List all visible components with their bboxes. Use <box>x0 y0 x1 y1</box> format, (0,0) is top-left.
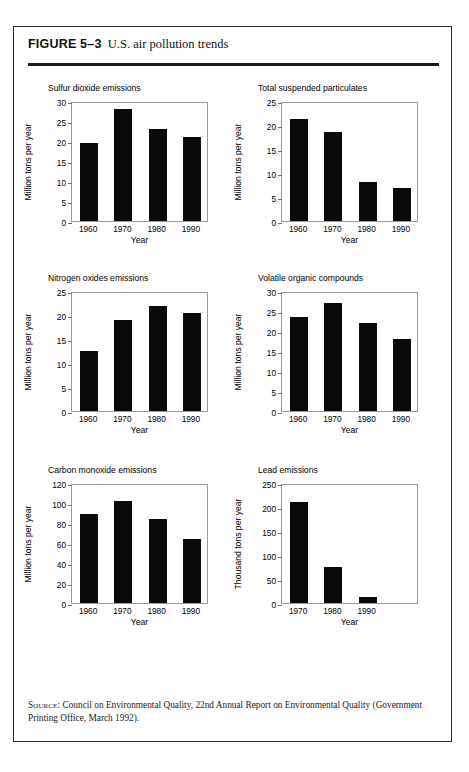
y-tick-label: 0 <box>61 409 66 417</box>
plot-area: 050100150200250 <box>281 484 418 604</box>
x-tick-label: 1970 <box>113 414 131 424</box>
x-axis-title: Year <box>281 425 418 435</box>
y-tick-label: 60 <box>57 541 66 549</box>
y-tick-label: 10 <box>57 179 66 187</box>
y-axis-title: Million tons per year <box>232 102 244 222</box>
y-tick-mark <box>68 123 72 124</box>
x-tick-label: 1990 <box>357 606 375 616</box>
x-tick-label: 1980 <box>147 414 165 424</box>
x-tick-label: 1990 <box>182 606 200 616</box>
y-tick-mark <box>278 151 282 152</box>
y-tick-label: 0 <box>61 601 66 609</box>
y-tick-label: 100 <box>52 501 66 509</box>
bar <box>183 313 201 411</box>
x-axis-title: Year <box>71 425 208 435</box>
chart-panel: Sulfur dioxide emissionsMillion tons per… <box>24 83 224 273</box>
x-axis-title: Year <box>71 235 208 245</box>
bar <box>114 109 132 221</box>
chart-title: Nitrogen oxides emissions <box>48 273 148 283</box>
y-tick-mark <box>278 533 282 534</box>
chart-panel: Nitrogen oxides emissionsMillion tons pe… <box>24 273 224 463</box>
y-tick-mark <box>68 143 72 144</box>
x-tick-label: 1970 <box>113 606 131 616</box>
plot-area: 020406080100120 <box>71 484 208 604</box>
x-tick-label: 1970 <box>323 414 341 424</box>
bar <box>324 303 342 411</box>
bar <box>80 351 98 411</box>
bar <box>80 514 98 603</box>
chart-panel: Lead emissionsThousand tons per year1970… <box>234 465 434 655</box>
source-note: Source: Council on Environmental Quality… <box>28 699 438 724</box>
bar <box>324 132 342 221</box>
chart-panel: Total suspended particulatesMillion tons… <box>234 83 434 273</box>
y-tick-label: 20 <box>57 139 66 147</box>
x-tick-label: 1970 <box>289 606 307 616</box>
y-tick-label: 80 <box>57 521 66 529</box>
y-tick-mark <box>278 557 282 558</box>
y-tick-label: 0 <box>271 409 276 417</box>
y-tick-label: 15 <box>57 337 66 345</box>
x-tick-label: 1960 <box>289 414 307 424</box>
plot-area: 051015202530 <box>281 292 418 412</box>
y-tick-mark <box>68 605 72 606</box>
bar <box>183 137 201 221</box>
y-tick-mark <box>278 223 282 224</box>
y-tick-mark <box>278 333 282 334</box>
y-tick-label: 15 <box>267 147 276 155</box>
y-tick-mark <box>68 545 72 546</box>
figure-box: FIGURE 5–3 U.S. air pollution trends Sul… <box>13 26 452 742</box>
y-tick-mark <box>68 103 72 104</box>
y-tick-mark <box>278 393 282 394</box>
x-tick-label: 1960 <box>79 224 97 234</box>
y-tick-label: 0 <box>271 601 276 609</box>
x-tick-label: 1980 <box>147 224 165 234</box>
y-tick-mark <box>278 175 282 176</box>
x-tick-label: 1980 <box>357 414 375 424</box>
y-tick-mark <box>68 389 72 390</box>
y-tick-label: 25 <box>57 119 66 127</box>
chart-title: Sulfur dioxide emissions <box>48 83 141 93</box>
y-tick-label: 30 <box>57 99 66 107</box>
bar <box>393 188 411 221</box>
bar <box>290 119 308 221</box>
y-tick-mark <box>278 605 282 606</box>
y-axis-title: Million tons per year <box>22 484 34 604</box>
x-tick-label: 1980 <box>147 606 165 616</box>
bar <box>393 339 411 411</box>
y-tick-mark <box>278 485 282 486</box>
y-tick-mark <box>278 581 282 582</box>
plot-area: 0510152025 <box>71 292 208 412</box>
bar <box>359 597 377 603</box>
source-text: Council on Environmental Quality, 22nd A… <box>28 700 422 723</box>
y-tick-label: 10 <box>267 171 276 179</box>
y-tick-mark <box>278 509 282 510</box>
y-tick-label: 150 <box>262 529 276 537</box>
x-axis-title: Year <box>71 617 208 627</box>
figure-rule <box>28 63 439 66</box>
y-tick-mark <box>68 163 72 164</box>
y-tick-mark <box>68 223 72 224</box>
y-tick-mark <box>68 317 72 318</box>
y-tick-mark <box>68 413 72 414</box>
bar <box>114 501 132 603</box>
y-tick-mark <box>68 341 72 342</box>
chart-title: Volatile organic compounds <box>258 273 363 283</box>
y-axis-title: Thousand tons per year <box>232 484 244 604</box>
y-tick-mark <box>68 183 72 184</box>
figure-number: FIGURE 5–3 <box>28 37 102 51</box>
y-axis-title: Million tons per year <box>232 292 244 412</box>
bar <box>149 129 167 221</box>
y-axis-title: Million tons per year <box>22 102 34 222</box>
chart-title: Total suspended particulates <box>258 83 367 93</box>
y-tick-label: 20 <box>57 313 66 321</box>
y-tick-label: 15 <box>57 159 66 167</box>
y-tick-mark <box>278 413 282 414</box>
bar <box>290 317 308 411</box>
x-tick-label: 1980 <box>323 606 341 616</box>
y-tick-label: 5 <box>61 385 66 393</box>
y-tick-mark <box>68 203 72 204</box>
bar <box>359 182 377 221</box>
y-tick-mark <box>278 313 282 314</box>
y-tick-mark <box>68 525 72 526</box>
bar <box>290 502 308 603</box>
